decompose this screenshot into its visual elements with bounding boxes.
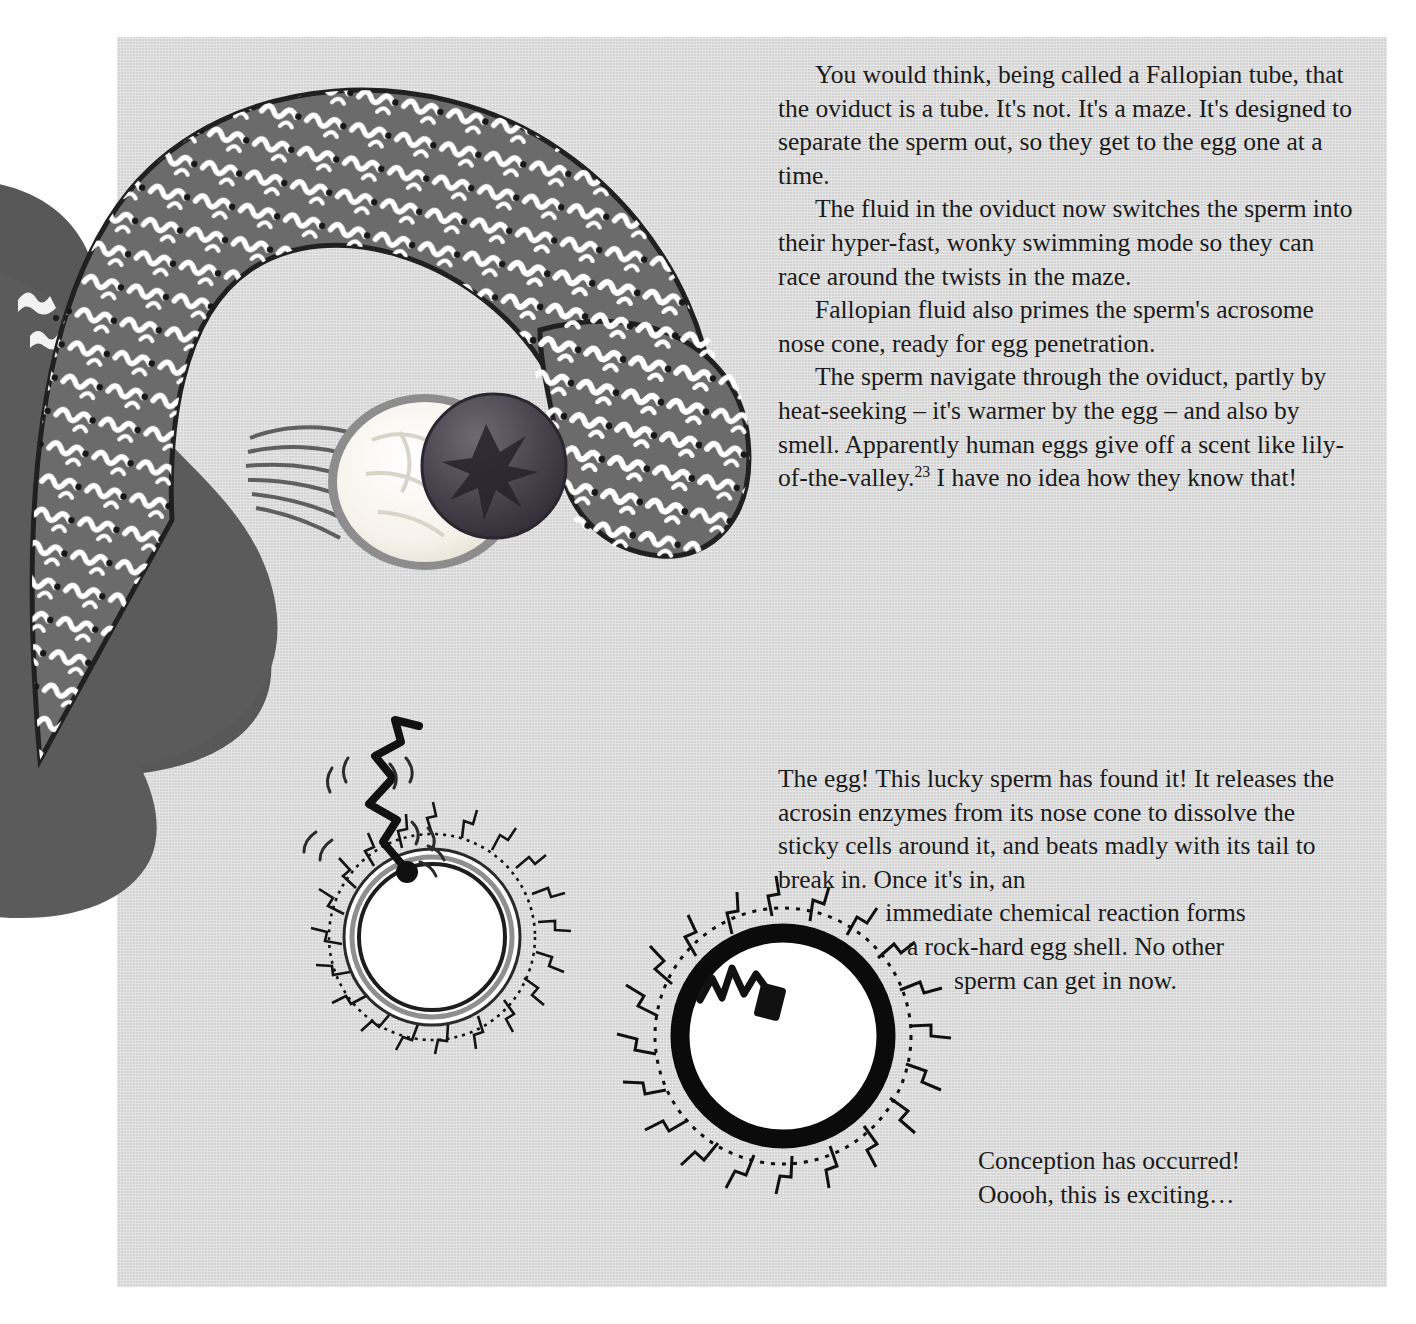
conception-line: Conception has occurred! [978,1144,1358,1178]
exciting-line: Ooooh, this is exciting… [978,1178,1358,1212]
paragraph: The fluid in the oviduct now switches th… [778,192,1353,293]
footnote-marker: 23 [914,463,930,480]
uterus-lumen-flecks [18,292,64,349]
text-block-conception: Conception has occurred! Ooooh, this is … [978,1144,1358,1211]
text-block-oviduct: You would think, being called a Fallopia… [778,58,1353,495]
text-block-egg-found: The egg! This lucky sperm has found it! … [778,762,1353,997]
paragraph-tail: I have no idea how they know that! [930,463,1297,492]
paragraph: Fallopian fluid also primes the sperm's … [778,293,1353,360]
centered-line: sperm can get in now. [778,964,1353,998]
centered-line: immediate chemical reaction forms [778,896,1353,930]
running-head [900,0,1400,4]
paragraph-lead: The egg! This lucky sperm has found it! … [778,764,1334,894]
paragraph: You would think, being called a Fallopia… [778,58,1353,192]
centered-line: a rock-hard egg shell. No other [778,930,1353,964]
paragraph: The egg! This lucky sperm has found it! … [778,762,1353,997]
book-page: You would think, being called a Fallopia… [0,0,1416,1324]
paragraph: The sperm navigate through the oviduct, … [778,360,1353,494]
